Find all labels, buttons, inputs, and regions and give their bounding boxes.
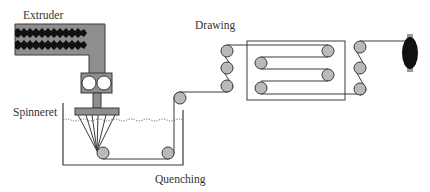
spinneret-stem: [93, 93, 101, 108]
pump-gear-icon: [82, 76, 96, 90]
godet-roller-icon: [221, 80, 233, 92]
quench-roller-icon: [97, 147, 109, 159]
godet-roller-icon: [221, 62, 233, 74]
bobbin-icon: [402, 37, 418, 69]
melt-spinning-diagram: Extruder Drawing Spinneret Quenching: [0, 0, 430, 192]
godet-roller-icon: [354, 62, 366, 74]
draw-box: [247, 41, 360, 100]
godet-roller-icon: [354, 83, 366, 95]
yarn-path-quench: [97, 92, 227, 159]
spinneret-label: Spinneret: [13, 106, 58, 119]
metering-pump: [81, 73, 112, 93]
pump-gear-icon: [97, 76, 111, 90]
quenching-label: Quenching: [155, 173, 206, 186]
spinneret: [75, 93, 119, 151]
draw-roller-icon: [322, 69, 334, 81]
extruder-label: Extruder: [23, 9, 63, 21]
drawing-label: Drawing: [195, 19, 235, 32]
draw-roller-icon: [255, 82, 267, 94]
draw-roller-icon: [255, 57, 267, 69]
take-up-bobbin: [402, 34, 418, 72]
spinneret-plate: [75, 108, 119, 115]
godet-stack-2: [354, 41, 410, 95]
quench-roller-icon: [162, 147, 174, 159]
guide-roller-icon: [174, 92, 186, 104]
extruder: [15, 24, 105, 74]
quench-bath: [63, 92, 227, 165]
godet-roller-icon: [354, 41, 366, 53]
godet-roller-icon: [221, 45, 233, 57]
draw-roller-icon: [322, 45, 334, 57]
